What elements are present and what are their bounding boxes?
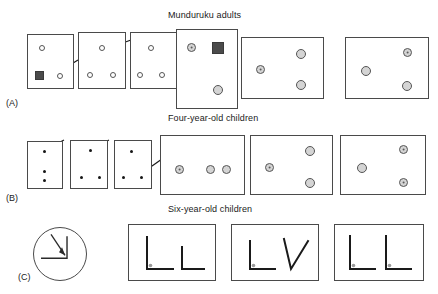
circle-open [39,45,45,51]
panel-c1 [128,224,216,281]
dot [89,149,92,152]
gray-circle [402,81,412,91]
row-label-b: (B) [6,193,18,203]
dot [43,150,46,153]
panel-b5 [250,135,333,195]
row-title-c: Six-year-old children [168,204,252,214]
panel-b2 [70,140,108,189]
dot [43,179,46,182]
dot [140,176,143,179]
row-title-b: Four-year-old children [168,113,258,123]
gray-circle [222,165,231,174]
stimulus-angle-icon [33,227,87,281]
figure-container: Munduruku adults(A)Four-year-old childre… [0,0,438,294]
panel-b4 [160,135,245,195]
angle-right-with-dot-icon [145,237,181,279]
row-label-a: (A) [6,98,18,108]
row-title-a: Munduruku adults [168,10,241,20]
circle-open [99,45,105,51]
dot [80,176,83,179]
gray-circle [206,165,215,174]
target-circle [175,165,184,174]
target-circle [399,145,408,154]
gray-circle [357,163,367,173]
dark-square [212,42,224,54]
gray-circle [361,66,371,76]
circle-open [57,73,63,79]
panel-a4 [176,29,238,109]
target-circle [265,163,274,172]
dark-square [35,71,44,80]
panel-a2 [78,32,126,89]
gray-circle [296,49,306,59]
angle-acute-icon [282,239,316,279]
target-circle [187,43,196,52]
circle-open [159,72,165,78]
gray-circle [305,146,315,156]
panel-c2 [231,224,319,281]
circle-open [137,72,143,78]
angle-right-with-dot-icon [348,236,383,279]
gray-circle [305,178,315,188]
dot [122,176,125,179]
dot [130,150,133,153]
circle-open [110,72,116,78]
row-label-c: (C) [18,272,31,282]
panel-a6 [345,37,429,99]
panel-a5 [241,37,324,99]
dot [43,170,46,173]
panel-a3 [130,32,178,89]
target-circle [403,48,412,57]
gray-circle [213,85,223,95]
target-circle [399,178,408,187]
target-circle [256,65,265,74]
angle-right-icon [180,247,212,279]
angle-right-with-dot-icon [248,241,283,279]
circle-open [87,72,93,78]
panel-b1 [27,141,63,189]
gray-circle [296,80,306,90]
circle-open [148,45,154,51]
panel-a1 [27,34,74,89]
dot [98,176,101,179]
panel-b3 [114,140,152,189]
panel-c3 [334,224,424,281]
angle-right-with-dot-icon [384,236,419,279]
panel-b6 [340,135,426,195]
